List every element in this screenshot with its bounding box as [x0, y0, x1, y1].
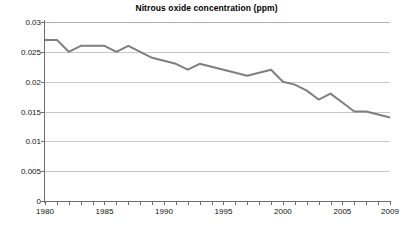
x-axis-tick-label: 1995	[215, 207, 233, 216]
y-axis-tick-mark	[41, 201, 45, 202]
x-axis-tick-mark	[212, 201, 213, 205]
y-axis-tick-labels: 00.0050.010.0150.020.0250.03	[0, 0, 41, 233]
x-axis-tick-mark	[188, 201, 189, 205]
x-axis-tick-mark	[283, 201, 284, 205]
y-axis-tick-label: 0	[1, 197, 41, 206]
x-axis-tick-mark	[140, 201, 141, 205]
x-axis-tick-mark	[319, 201, 320, 205]
x-axis-tick-mark	[235, 201, 236, 205]
x-axis-tick-mark	[342, 201, 343, 205]
y-axis-tick-mark	[41, 171, 45, 172]
x-axis-tick-mark	[247, 201, 248, 205]
x-axis-tick-label: 1990	[155, 207, 173, 216]
y-axis-tick-mark	[41, 22, 45, 23]
x-axis-tick-mark	[307, 201, 308, 205]
x-axis-tick-mark	[366, 201, 367, 205]
x-axis-tick-label: 2000	[274, 207, 292, 216]
x-axis-tick-label: 2005	[334, 207, 352, 216]
y-axis-tick-mark	[41, 112, 45, 113]
x-axis-tick-mark	[116, 201, 117, 205]
chart-figure: Nitrous oxide concentration (ppm) 00.005…	[0, 0, 413, 233]
y-axis-tick-mark	[41, 141, 45, 142]
x-axis-tick-mark	[378, 201, 379, 205]
x-axis-tick-mark	[200, 201, 201, 205]
source-caption	[0, 225, 413, 233]
x-axis-tick-mark	[223, 201, 224, 205]
x-axis-line	[44, 201, 391, 202]
y-axis-tick-mark	[41, 82, 45, 83]
x-axis-tick-mark	[57, 201, 58, 205]
y-axis-tick-label: 0.005	[1, 167, 41, 176]
plot-area	[45, 22, 390, 201]
x-axis-tick-mark	[81, 201, 82, 205]
x-axis-tick-mark	[93, 201, 94, 205]
x-axis-tick-label: 1985	[96, 207, 114, 216]
x-axis-tick-mark	[45, 201, 46, 205]
x-axis-tick-mark	[164, 201, 165, 205]
x-axis-tick-mark	[354, 201, 355, 205]
x-axis-tick-mark	[176, 201, 177, 205]
x-axis-tick-label: 1980	[36, 207, 54, 216]
y-axis-tick-label: 0.02	[1, 77, 41, 86]
x-axis-tick-mark	[104, 201, 105, 205]
x-axis-tick-mark	[69, 201, 70, 205]
x-axis-tick-mark	[128, 201, 129, 205]
x-axis-tick-mark	[295, 201, 296, 205]
x-axis-tick-label: 2009	[381, 207, 399, 216]
y-axis-tick-label: 0.03	[1, 18, 41, 27]
data-series-line	[45, 22, 390, 201]
x-axis-tick-mark	[152, 201, 153, 205]
y-axis-tick-label: 0.015	[1, 107, 41, 116]
x-axis-tick-mark	[271, 201, 272, 205]
x-axis-tick-mark	[390, 201, 391, 205]
y-axis-tick-label: 0.01	[1, 137, 41, 146]
chart-title: Nitrous oxide concentration (ppm)	[0, 3, 413, 13]
x-axis-tick-mark	[331, 201, 332, 205]
y-axis-tick-mark	[41, 52, 45, 53]
y-axis-tick-label: 0.025	[1, 47, 41, 56]
x-axis-tick-mark	[259, 201, 260, 205]
